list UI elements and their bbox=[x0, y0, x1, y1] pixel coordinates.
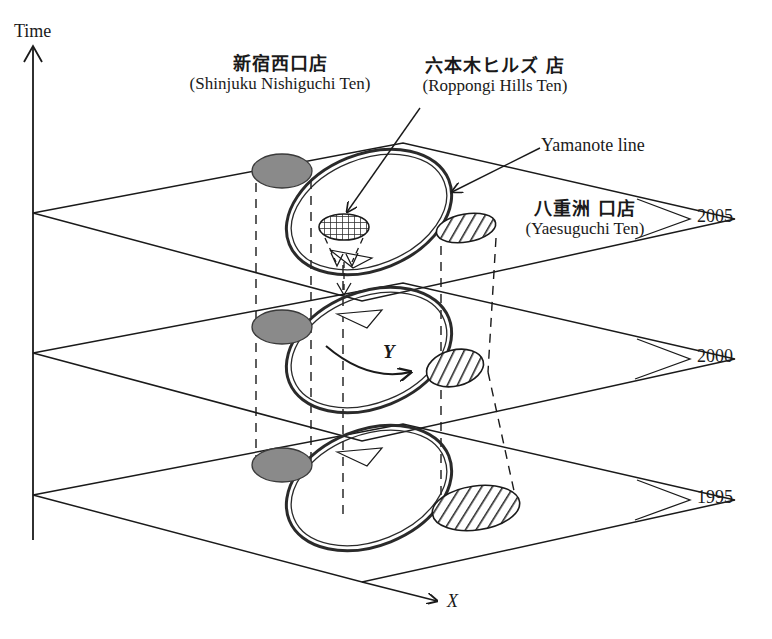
shinjuku-marker-1995 bbox=[252, 448, 312, 482]
time-axis bbox=[24, 46, 42, 540]
yamanote-loop-2000 bbox=[268, 264, 471, 436]
shinjuku-marker-2005 bbox=[252, 154, 312, 188]
objects-2000 bbox=[252, 264, 487, 436]
y-direction-arrow-2000 bbox=[326, 346, 411, 374]
objects-2005 bbox=[252, 126, 498, 298]
shinjuku-label-jp: 新宿西口店 bbox=[180, 53, 380, 74]
roppongi-label-romaji: (Roppongi Hills Ten) bbox=[400, 76, 590, 96]
spatio-temporal-diagram-svg bbox=[0, 0, 772, 639]
x-axis-label: X bbox=[447, 591, 458, 612]
yamanote-leader bbox=[452, 148, 540, 192]
year-label-2000: 2000 bbox=[697, 346, 733, 367]
roppongi-marker-2005 bbox=[319, 214, 369, 240]
time-slice-plane-1995 bbox=[33, 424, 735, 601]
yamanote-line-label: Yamanote line bbox=[541, 135, 645, 156]
yaesu-marker-2000 bbox=[423, 344, 488, 393]
y-axis-inner-label: Y bbox=[383, 341, 395, 363]
time-axis-label: Time bbox=[14, 21, 51, 42]
objects-1995 bbox=[252, 402, 523, 574]
yaesu-label-group: 八重洲 口店 (Yaesuguchi Ten) bbox=[495, 198, 675, 239]
label-leader-lines bbox=[347, 108, 540, 212]
diagram-canvas: Time 新宿西口店 (Shinjuku Nishiguchi Ten) 六本木… bbox=[0, 0, 772, 639]
year-label-2005: 2005 bbox=[697, 206, 733, 227]
shinjuku-marker-2000 bbox=[252, 310, 312, 344]
yamanote-loop-1995 bbox=[268, 402, 471, 574]
x-axis-arrow bbox=[362, 582, 437, 601]
year-label-1995: 1995 bbox=[697, 487, 733, 508]
roppongi-label-group: 六本木ヒルズ 店 (Roppongi Hills Ten) bbox=[400, 55, 590, 96]
yaesu-label-romaji: (Yaesuguchi Ten) bbox=[495, 219, 675, 239]
yaesu-label-jp: 八重洲 口店 bbox=[495, 198, 675, 219]
yaesu-marker-2005 bbox=[434, 209, 498, 247]
roppongi-label-jp: 六本木ヒルズ 店 bbox=[400, 55, 590, 76]
shinjuku-label-group: 新宿西口店 (Shinjuku Nishiguchi Ten) bbox=[180, 53, 380, 94]
shinjuku-label-romaji: (Shinjuku Nishiguchi Ten) bbox=[180, 74, 380, 94]
